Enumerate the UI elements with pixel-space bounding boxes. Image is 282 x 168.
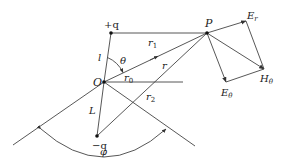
Er-to-H-side: [246, 21, 264, 69]
H-theta-label: Hθ: [259, 73, 274, 86]
dipole-lower-arm: [97, 82, 104, 136]
P-point: [205, 31, 209, 35]
r1-label: r1: [148, 37, 157, 50]
l-label: l: [98, 52, 101, 63]
E-r-label: Er: [246, 10, 258, 23]
L-label: L: [88, 105, 96, 116]
origin-label: O: [93, 76, 102, 89]
dipole-diagram: +q O P −q l L θ r r0 r1 r2 Er Hθ Eθ φ: [0, 0, 282, 168]
r2-label: r2: [146, 91, 155, 104]
theta-label: θ: [120, 55, 126, 66]
E-theta-vector: [207, 33, 226, 82]
E-theta-label: Eθ: [220, 87, 233, 100]
minus-q-charge: [95, 134, 99, 138]
H-theta-vector: [207, 33, 264, 69]
r0-label: r0: [124, 72, 133, 85]
plus-q-label: +q: [104, 19, 119, 30]
origin-point: [102, 80, 106, 84]
Etheta-to-H-side: [226, 69, 264, 82]
P-label: P: [204, 17, 213, 30]
phi-label: φ: [100, 146, 107, 157]
r-label: r: [162, 60, 168, 71]
E-r-vector: [207, 21, 246, 33]
r-direction-arrow: [150, 56, 158, 60]
plus-q-charge: [109, 31, 113, 35]
